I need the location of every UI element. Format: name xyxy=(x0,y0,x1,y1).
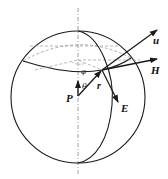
label-r: r xyxy=(97,80,101,91)
label-theta: θ xyxy=(82,82,87,91)
phi-lines xyxy=(35,60,102,70)
label-H: H xyxy=(150,64,160,76)
latitude-back xyxy=(23,45,131,61)
meridian xyxy=(78,31,112,163)
label-u: u xyxy=(153,34,159,46)
label-E: E xyxy=(120,102,128,114)
label-phi: φ xyxy=(81,68,86,76)
label-P: P xyxy=(66,92,73,104)
sphere-diagram: u H E P r θ φ xyxy=(0,0,168,179)
